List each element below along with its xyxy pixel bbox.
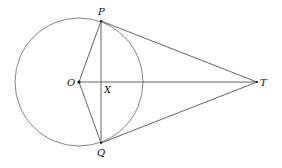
point-o-dot (77, 80, 80, 83)
point-q-dot (100, 142, 102, 144)
tangent-pt (101, 21, 257, 82)
segment-oq (79, 82, 101, 143)
tangent-qt (101, 82, 257, 143)
label-q: Q (97, 147, 105, 158)
segment-op (79, 21, 101, 82)
label-x: X (103, 84, 112, 95)
label-o: O (67, 77, 75, 88)
geometry-diagram: P Q O X T (0, 0, 282, 168)
label-p: P (97, 6, 105, 17)
label-t: T (260, 77, 268, 88)
point-t-dot (256, 81, 258, 83)
point-p-dot (100, 20, 102, 22)
